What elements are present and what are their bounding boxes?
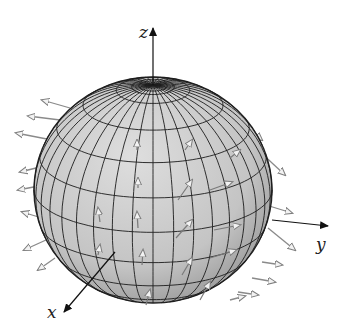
vector-arrow	[268, 228, 295, 250]
vector-arrow	[28, 116, 60, 120]
vector-arrow	[38, 258, 55, 270]
vector-arrow	[238, 292, 258, 295]
vector-arrow	[230, 296, 245, 300]
vector-arrow	[252, 278, 275, 282]
vector-arrow	[42, 100, 70, 108]
vector-arrow	[262, 262, 282, 265]
sphere	[34, 77, 272, 303]
z-axis-label: z	[138, 22, 149, 42]
y-axis	[272, 220, 328, 226]
sphere-vector-field-diagram: z y x	[0, 0, 355, 335]
vector-arrow	[24, 240, 46, 250]
x-axis-label: x	[47, 302, 57, 322]
y-axis-label: y	[315, 234, 326, 254]
